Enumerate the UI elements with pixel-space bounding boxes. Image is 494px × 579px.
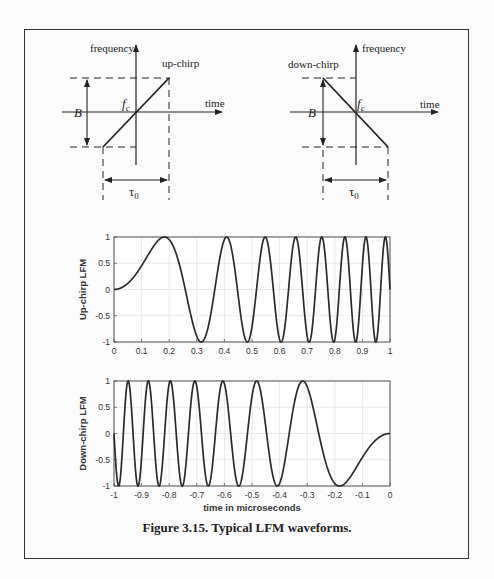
up-center-freq-label: fc	[122, 96, 130, 113]
x-tick-label: -0.7	[189, 490, 204, 500]
x-tick-label: 0.6	[274, 346, 286, 356]
x-tick-label: -0.6	[217, 490, 232, 500]
x-tick-label: -0.4	[272, 490, 287, 500]
x-tick-label: 0	[388, 490, 393, 500]
x-tick-label: -0.9	[134, 490, 149, 500]
x-tick-label: -1	[110, 490, 118, 500]
x-tick-label: 0.8	[329, 346, 341, 356]
down-freq-axis-label: frequency	[362, 42, 406, 54]
down-time-label: time	[420, 98, 440, 110]
up-chirp-label: up-chirp	[162, 57, 200, 69]
figure-canvas: frequency up-chirp time B fc τ0 frequenc…	[0, 0, 494, 579]
y-tick-label: 0.5	[98, 258, 110, 268]
up-time-label: time	[205, 97, 225, 109]
figure-caption: Figure 3.15. Typical LFM waveforms.	[0, 520, 494, 536]
y-tick-label: -1	[102, 481, 110, 491]
x-tick-label: -0.3	[300, 490, 315, 500]
y-tick-label: 1	[105, 232, 110, 242]
y-tick-label: 1	[105, 376, 110, 386]
x-tick-label: 0	[112, 346, 117, 356]
up-bandwidth-label: B	[74, 105, 82, 120]
x-tick-label: -0.1	[355, 490, 370, 500]
x-tick-label: 0.4	[218, 346, 230, 356]
x-tick-label: 0.7	[301, 346, 313, 356]
x-tick-label: 0.2	[163, 346, 175, 356]
y-tick-label: -0.5	[95, 455, 110, 465]
up-chirp-plot: 00.10.20.30.40.50.60.70.80.91-1-0.500.51…	[77, 232, 393, 356]
x-tick-label: 0.3	[191, 346, 203, 356]
y-tick-label: -0.5	[95, 311, 110, 321]
y-axis-label: Up-chirp LFM	[77, 259, 88, 320]
down-chirp-plot: -1-0.9-0.8-0.7-0.6-0.5-0.4-0.3-0.2-0.10-…	[77, 376, 393, 513]
x-tick-label: -0.8	[162, 490, 177, 500]
x-tick-label: -0.2	[327, 490, 342, 500]
x-axis-label: time in microseconds	[203, 502, 301, 513]
up-freq-axis-label: frequency	[90, 42, 134, 54]
x-tick-label: 0.5	[246, 346, 258, 356]
x-tick-label: 0.1	[136, 346, 148, 356]
y-tick-label: 0	[105, 285, 110, 295]
up-duration-label: τ0	[129, 184, 139, 201]
x-tick-label: -0.5	[245, 490, 260, 500]
x-tick-label: 1	[388, 346, 393, 356]
down-chirp-label: down-chirp	[288, 58, 339, 70]
down-duration-label: τ0	[349, 184, 359, 201]
y-tick-label: -1	[102, 337, 110, 347]
y-tick-label: 0	[105, 429, 110, 439]
down-bandwidth-label: B	[308, 105, 316, 120]
x-tick-label: 0.9	[356, 346, 368, 356]
y-tick-label: 0.5	[98, 402, 110, 412]
down-center-freq-label: fc	[357, 96, 365, 113]
y-axis-label: Down-chirp LFM	[77, 396, 88, 470]
